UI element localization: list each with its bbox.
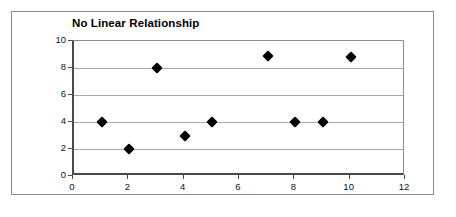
data-point xyxy=(207,116,218,127)
plot-area xyxy=(72,40,404,175)
x-tick-mark xyxy=(404,175,405,179)
y-tick-label: 8 xyxy=(44,62,66,72)
x-tick-mark xyxy=(183,175,184,179)
x-tick-label: 10 xyxy=(337,181,361,192)
data-point xyxy=(179,130,190,141)
gridline xyxy=(74,122,403,123)
data-point xyxy=(345,52,356,63)
data-point xyxy=(151,62,162,73)
data-point xyxy=(124,143,135,154)
x-tick-label: 0 xyxy=(60,181,84,192)
data-point xyxy=(317,116,328,127)
y-tick-label: 6 xyxy=(44,89,66,99)
x-tick-mark xyxy=(238,175,239,179)
chart-page: No Linear Relationship 0246810 024681012 xyxy=(0,0,456,217)
plot-inner xyxy=(74,41,403,173)
x-tick-label: 6 xyxy=(226,181,250,192)
y-axis-tick-labels: 0246810 xyxy=(42,40,66,175)
x-axis-tick-labels: 024681012 xyxy=(72,181,404,195)
x-tick-mark xyxy=(293,175,294,179)
y-tick-label: 10 xyxy=(44,35,66,45)
data-point xyxy=(290,116,301,127)
chart-title: No Linear Relationship xyxy=(72,17,199,29)
x-tick-label: 12 xyxy=(392,181,416,192)
x-tick-mark xyxy=(127,175,128,179)
y-tick-label: 2 xyxy=(44,143,66,153)
gridline xyxy=(74,68,403,69)
y-tick-label: 0 xyxy=(44,170,66,180)
x-tick-mark xyxy=(349,175,350,179)
x-tick-label: 2 xyxy=(115,181,139,192)
x-tick-label: 8 xyxy=(281,181,305,192)
x-axis-tick-marks xyxy=(72,175,404,180)
y-tick-label: 4 xyxy=(44,116,66,126)
x-tick-mark xyxy=(72,175,73,179)
x-tick-label: 4 xyxy=(171,181,195,192)
gridline xyxy=(74,95,403,96)
data-point xyxy=(96,116,107,127)
data-point xyxy=(262,50,273,61)
